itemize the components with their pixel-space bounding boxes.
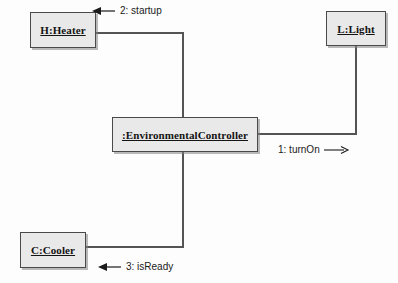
message-turn-on[interactable]: 1: turnOn <box>278 144 350 155</box>
message-label-startup: 2: startup <box>120 5 162 16</box>
message-label-turn-on: 1: turnOn <box>278 144 320 155</box>
object-node-heater[interactable]: H:Heater <box>30 12 96 48</box>
object-label-light: L:Light <box>337 23 374 35</box>
arrow-left-icon <box>92 6 116 16</box>
message-startup[interactable]: 2: startup <box>92 5 162 16</box>
message-label-is-ready: 3: isReady <box>126 261 173 272</box>
object-label-environmental-controller: :EnvironmentalController <box>122 129 248 141</box>
object-label-cooler: C:Cooler <box>31 244 75 256</box>
object-node-cooler[interactable]: C:Cooler <box>20 232 86 268</box>
arrow-right-icon <box>324 145 350 155</box>
link-light-controller <box>258 46 356 134</box>
link-cooler-controller <box>86 152 183 247</box>
message-is-ready[interactable]: 3: isReady <box>98 261 173 272</box>
object-node-environmental-controller[interactable]: :EnvironmentalController <box>112 117 258 152</box>
object-label-heater: H:Heater <box>40 24 85 36</box>
uml-communication-diagram: H:Heater L:Light :EnvironmentalControlle… <box>0 0 398 283</box>
object-node-light[interactable]: L:Light <box>326 11 386 46</box>
arrow-left-icon <box>98 262 122 272</box>
link-heater-controller <box>96 33 183 117</box>
